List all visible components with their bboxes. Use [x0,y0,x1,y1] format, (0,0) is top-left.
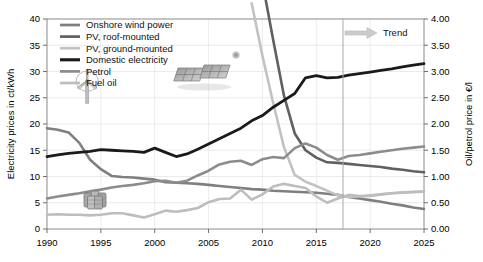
x-axis-tick-label: 2020 [360,237,381,248]
right-axis-tick-label: 0.50 [431,197,450,208]
right-axis-tick-label: 0.00 [431,223,450,234]
left-axis-tick-label: 5 [35,197,40,208]
sun-dot-illustration [232,51,240,59]
chart-background [0,0,483,262]
left-axis-tick-label: 40 [29,13,40,24]
right-axis-tick-label: 3.00 [431,66,450,77]
chart-figure: Trend Onshore wind powerPV, roof-mounted… [0,0,483,262]
left-axis-tick-label: 10 [29,171,40,182]
trend-label: Trend [383,27,407,38]
right-axis-tick-label: 1.50 [431,145,450,156]
left-axis-tick-label: 15 [29,145,40,156]
oil-barrels-illustration [84,191,106,209]
right-axis-tick-label: 2.00 [431,118,450,129]
x-axis-tick-label: 1990 [36,237,57,248]
left-axis-title: Electricity prices in ct/kWh [5,69,16,179]
right-axis-tick-label: 4.00 [431,13,450,24]
legend-label: PV, roof-mounted [86,31,160,42]
x-axis-tick-label: 2005 [198,237,219,248]
legend-label: Onshore wind power [86,19,173,30]
line-chart: Trend Onshore wind powerPV, roof-mounted… [0,0,483,262]
legend-label: Domestic electricity [86,54,168,65]
right-axis-tick-label: 1.00 [431,171,450,182]
legend-label: Fuel oil [86,77,117,88]
x-axis-tick-label: 2025 [413,237,434,248]
legend-label: PV, ground-mounted [86,43,173,54]
x-axis-tick-label: 1995 [90,237,111,248]
left-axis-tick-label: 0 [35,223,40,234]
x-axis-tick-label: 2015 [306,237,327,248]
x-axis-tick-label: 2010 [252,237,273,248]
right-axis-tick-label: 3.50 [431,40,450,51]
right-axis-title: Oil/petrol price in €/l [463,82,474,166]
left-axis-tick-label: 35 [29,40,40,51]
legend-label: Petrol [86,66,111,77]
left-axis-tick-label: 30 [29,66,40,77]
solar-panels-illustration [174,65,231,91]
left-axis-tick-label: 20 [29,118,40,129]
left-axis-tick-label: 25 [29,92,40,103]
x-axis-tick-label: 2000 [144,237,165,248]
right-axis-tick-label: 2.50 [431,92,450,103]
